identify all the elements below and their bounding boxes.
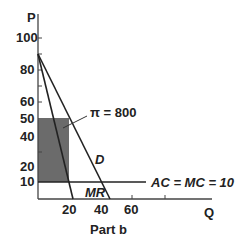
mr-label: MR [85, 185, 106, 200]
x-axis-label: Q [204, 205, 214, 220]
y-tick-80: 80 [20, 62, 34, 77]
y-tick-20: 20 [20, 159, 34, 174]
y-axis-label: P [27, 10, 36, 25]
y-tick-60: 60 [20, 94, 34, 109]
x-tick-20: 20 [62, 202, 76, 217]
caption: Part b [90, 222, 127, 237]
x-tick-40: 40 [94, 202, 108, 217]
y-tick-50: 50 [20, 111, 34, 126]
demand-label: D [95, 152, 105, 167]
x-tick-60: 60 [124, 202, 138, 217]
cost-label: AC = MC = 10 [150, 175, 235, 190]
y-tick-10: 10 [20, 174, 34, 189]
chart: P Q Part b 100 80 60 50 40 20 10 20 40 6… [0, 0, 241, 238]
y-tick-40: 40 [20, 129, 34, 144]
y-tick-100: 100 [16, 30, 38, 45]
profit-label: π = 800 [90, 105, 136, 120]
